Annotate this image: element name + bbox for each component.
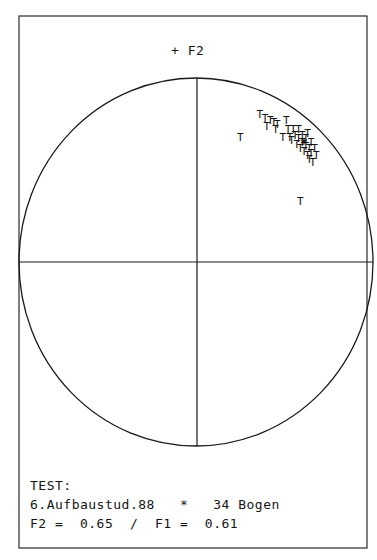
data-point: T bbox=[313, 149, 320, 162]
data-point: T bbox=[297, 195, 304, 208]
data-point: T bbox=[237, 131, 244, 144]
axis-label-f2: + F2 bbox=[171, 43, 204, 58]
legend-title: TEST: bbox=[30, 478, 72, 493]
plot-frame bbox=[19, 16, 367, 548]
correlation-circle-plot: TTTTTTTTTTTTTTTTTTTTTTTTTTTTTTTTTT* bbox=[0, 0, 377, 560]
legend-values: F2 = 0.65 / F1 = 0.61 bbox=[30, 516, 238, 531]
data-point: T bbox=[274, 118, 281, 131]
centroid-marker: * bbox=[300, 135, 308, 151]
legend-series: 6.Aufbaustud.88 * 34 Bogen bbox=[30, 497, 280, 512]
data-points: TTTTTTTTTTTTTTTTTTTTTTTTTTTTTTTTTT* bbox=[237, 108, 320, 207]
